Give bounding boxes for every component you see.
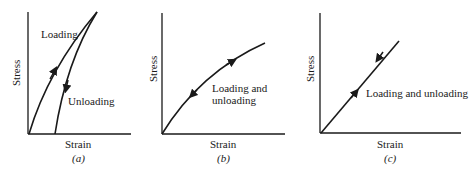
panel-a: Stress Strain (a) Loading Unloading [10,12,131,165]
y-axis-label: Stress [147,56,159,82]
panel-c: Stress Strain (c) Loading and unloading [304,13,469,165]
loading-arrow-icon [351,92,356,98]
panel-caption: (a) [72,152,85,165]
unloading-arrow-icon [378,52,383,59]
loading-arrow-icon [226,61,233,65]
unloading-arrow-icon [192,90,197,95]
panel-b: Stress Strain (b) Loading and unloading [147,13,285,165]
annotation: Loading and unloading [366,87,469,99]
annotation-line-1: Loading and [212,82,268,94]
y-axis-label: Stress [10,60,22,86]
x-axis-label: Strain [65,138,92,150]
panel-caption: (c) [384,152,397,165]
unloading-annotation: Unloading [68,95,115,107]
stress-strain-figure: Stress Strain (a) Loading Unloading Stre… [0,0,474,173]
annotation-line-2: unloading [212,94,256,106]
y-axis-label: Stress [304,56,316,82]
x-axis-label: Strain [377,138,404,150]
x-axis-label: Strain [210,138,237,150]
loading-annotation: Loading [41,28,78,40]
panel-caption: (b) [217,152,230,165]
